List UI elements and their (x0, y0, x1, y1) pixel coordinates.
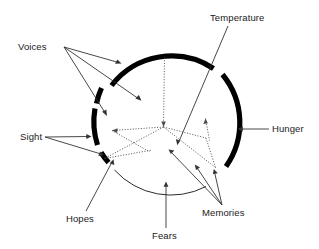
label-temperature: Temperature (210, 12, 264, 23)
spoke-lower-right-dotted (164, 127, 216, 168)
dotted-arrowhead-up (161, 122, 166, 128)
voices-arc-top (112, 56, 214, 86)
label-sight: Sight (20, 131, 42, 142)
memories-arrowhead-1 (169, 149, 175, 154)
voices-arrowhead-3 (102, 110, 107, 117)
sight-leader-1 (45, 137, 89, 138)
label-hopes: Hopes (66, 213, 94, 224)
inner-chord-memories-dotted (206, 138, 216, 168)
temperature-leader (179, 26, 229, 143)
inner-chord-lower-dotted (105, 150, 153, 159)
memories-arrowhead-3 (213, 169, 218, 174)
memories-leader-2 (197, 167, 223, 205)
dotted-arrowhead-memories-stub (203, 119, 208, 124)
inner-chord-down-dotted (112, 131, 150, 153)
fears-arrowhead (164, 182, 169, 187)
voices-arrowhead-2 (135, 95, 141, 101)
voices-arc-small-upper (97, 88, 102, 104)
sight-arc (94, 109, 98, 146)
spoke-up-dotted (164, 58, 165, 128)
label-hunger: Hunger (272, 123, 304, 134)
inner-chord-left-dotted (112, 127, 164, 131)
hopes-leader (86, 162, 112, 211)
hunger-arc (223, 75, 240, 167)
label-fears: Fears (152, 230, 177, 241)
sight-leader-2 (45, 137, 101, 154)
sight-arrowhead-1 (86, 134, 91, 139)
label-memories: Memories (202, 207, 245, 218)
diagram-canvas: Voices Temperature Hunger Sight Hopes Fe… (0, 0, 319, 249)
memories-leader-1 (171, 152, 223, 206)
memories-arrowhead-2 (195, 165, 200, 171)
label-voices: Voices (18, 41, 47, 52)
